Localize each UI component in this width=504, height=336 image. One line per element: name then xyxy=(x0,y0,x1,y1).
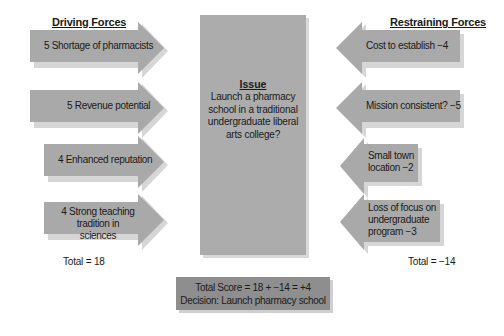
restraining-force-label: Small town location −2 xyxy=(368,150,414,174)
label-line: 4 Strong teaching xyxy=(44,206,138,218)
decision: Decision: Launch pharmacy school xyxy=(176,294,330,307)
restraining-force-arrow-2: Mission consistent? −5 xyxy=(336,82,466,138)
driving-force-label: 5 Shortage of pharmacists xyxy=(44,40,153,52)
driving-force-label: 4 Strong teaching tradition in sciences xyxy=(44,206,138,242)
restraining-force-label: Cost to establish −4 xyxy=(366,40,448,52)
restraining-force-arrow-3: Small town location −2 xyxy=(340,138,426,198)
issue-box: Issue Launch a pharmacy school in a trad… xyxy=(200,15,306,255)
score-decision-box: Total Score = 18 + −14 = +4 Decision: La… xyxy=(176,277,330,310)
restraining-force-label: Mission consistent? −5 xyxy=(366,100,461,112)
restraining-force-label: Loss of focus on undergraduate program −… xyxy=(368,202,436,238)
label-line: Small town xyxy=(368,150,414,162)
driving-force-arrow-4: 4 Strong teaching tradition in sciences xyxy=(44,194,170,250)
driving-total: Total = 18 xyxy=(63,256,105,267)
total-score: Total Score = 18 + −14 = +4 xyxy=(176,281,330,294)
label-line: tradition in sciences xyxy=(44,218,138,242)
driving-force-arrow-3: 4 Enhanced reputation xyxy=(44,136,170,192)
label-line: location −2 xyxy=(368,162,414,174)
driving-force-label: 4 Enhanced reputation xyxy=(58,154,152,166)
issue-text: Launch a pharmacy school in a traditiona… xyxy=(204,91,302,141)
issue-title: Issue xyxy=(200,78,306,90)
driving-force-label: 5 Revenue potential xyxy=(67,100,150,112)
label-line: undergraduate xyxy=(368,214,436,226)
driving-force-arrow-1: 5 Shortage of pharmacists xyxy=(30,22,170,78)
label-line: program −3 xyxy=(368,226,436,238)
restraining-total: Total = −14 xyxy=(408,256,455,267)
label-line: Loss of focus on xyxy=(368,202,436,214)
restraining-force-arrow-4: Loss of focus on undergraduate program −… xyxy=(340,194,446,254)
driving-force-arrow-2: 5 Revenue potential xyxy=(30,82,170,138)
restraining-force-arrow-1: Cost to establish −4 xyxy=(336,22,466,78)
